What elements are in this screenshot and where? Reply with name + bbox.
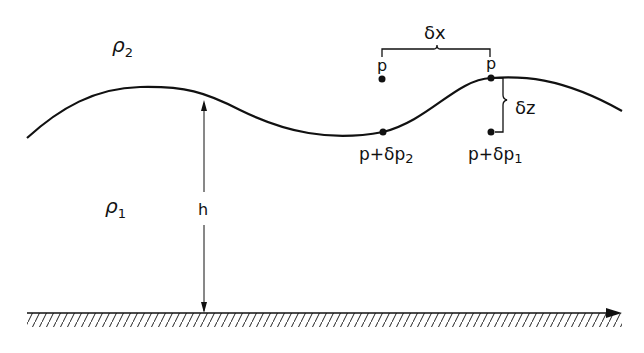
rho1-label: ρ1 xyxy=(105,194,126,221)
p-right-label: p xyxy=(486,54,496,73)
point-p-dp1 xyxy=(488,129,495,136)
height-label: h xyxy=(198,200,208,219)
point-p-left xyxy=(379,76,386,83)
interface-wave-diagram: ρ2 ρ1 h δx δz p p p+δp2 p+δp1 xyxy=(0,0,644,353)
point-p-dp2 xyxy=(380,129,387,136)
delta-z-label: δz xyxy=(515,97,535,118)
rho2-label: ρ2 xyxy=(112,33,133,60)
p-dp1-label: p+δp1 xyxy=(468,144,523,166)
height-arrow-up-icon xyxy=(201,100,207,111)
point-p-right xyxy=(488,75,495,82)
ground-hatch xyxy=(27,313,622,327)
delta-z-brace xyxy=(493,78,507,132)
delta-x-label: δx xyxy=(424,22,446,43)
delta-x-brace xyxy=(382,45,490,57)
p-left-label: p xyxy=(377,56,387,75)
p-dp2-label: p+δp2 xyxy=(359,144,414,166)
height-arrow-down-icon xyxy=(201,302,207,313)
